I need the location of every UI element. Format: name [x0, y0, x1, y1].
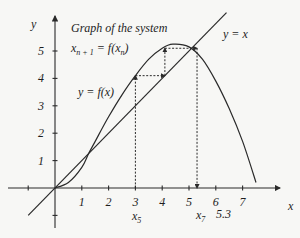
- y-axis-label: y: [30, 17, 37, 31]
- title-eq: = f(x: [94, 41, 121, 55]
- x-tick-label: 5: [186, 195, 192, 209]
- x-tick-label: 2: [106, 195, 112, 209]
- x-tick-label: 7: [240, 195, 247, 209]
- series: [28, 13, 256, 216]
- curve-f-of-x: [55, 44, 256, 188]
- x5-label: x5: [131, 209, 141, 225]
- title-close: ): [124, 41, 129, 55]
- x-tick-label: 3: [131, 195, 138, 209]
- title-line-1: Graph of the system: [71, 21, 168, 35]
- x7-sub: 7: [201, 215, 206, 224]
- cobweb-diagram: 123456712345 y x Graph of the system xn …: [0, 0, 300, 238]
- cobweb-path: [135, 48, 197, 188]
- title-line-2: xn + 1 = f(xn): [70, 41, 129, 57]
- fixed-point-value: 5.3: [216, 207, 231, 221]
- x7-label: x7: [195, 208, 206, 224]
- y-tick-label: 1: [38, 154, 44, 168]
- y-tick-label: 4: [38, 71, 44, 85]
- y-tick-label: 2: [38, 126, 44, 140]
- title-sub-n1: n + 1: [76, 48, 93, 57]
- x-tick-label: 1: [79, 195, 85, 209]
- x-tick-label: 4: [159, 195, 165, 209]
- plot-canvas: 123456712345 y x Graph of the system xn …: [0, 0, 300, 238]
- y-tick-label: 3: [37, 99, 44, 113]
- diagonal-label: y = x: [222, 27, 248, 41]
- x-axis-label: x: [287, 199, 294, 213]
- y-tick-label: 5: [38, 44, 44, 58]
- curve-label: y = f(x): [77, 85, 114, 99]
- x5-sub: 5: [137, 216, 141, 225]
- axis-ticks: 123456712345: [28, 44, 246, 215]
